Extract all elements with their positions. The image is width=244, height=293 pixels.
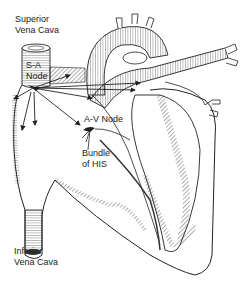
label-inferior-vena-cava-2: Vena Cava bbox=[14, 257, 58, 267]
label-inferior-vena-cava-1: Inferior bbox=[14, 246, 42, 256]
label-av-node: A-V Node bbox=[84, 114, 123, 124]
label-bundle-1: Bundle bbox=[82, 148, 110, 158]
heart-conduction-diagram: Superior Vena Cava S-A Node A-V Node Bun… bbox=[0, 0, 244, 293]
ventricles bbox=[55, 95, 200, 252]
label-superior-vena-cava-2: Vena Cava bbox=[15, 25, 59, 35]
heart-outline bbox=[55, 89, 216, 275]
label-superior-vena-cava-1: Superior bbox=[15, 14, 49, 24]
label-bundle-2: of HIS bbox=[82, 159, 107, 169]
label-sa-node-2: Node bbox=[26, 71, 48, 81]
label-sa-node-1: S-A bbox=[26, 60, 41, 70]
